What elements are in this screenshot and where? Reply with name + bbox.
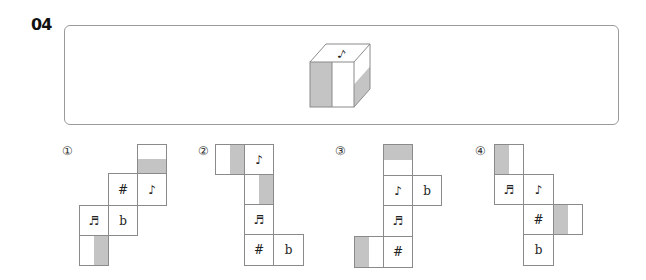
net-cell: ♬	[383, 205, 413, 237]
net-cell: #	[244, 234, 274, 266]
net-cell	[553, 204, 583, 235]
cube-figure: ♪	[300, 38, 380, 118]
flat-symbol: b	[535, 243, 543, 257]
option-1-marker[interactable]: ①	[62, 145, 73, 157]
net-cell: #	[523, 204, 554, 235]
net-cell	[137, 144, 167, 174]
option-3-marker[interactable]: ③	[335, 145, 346, 157]
sharp-symbol: #	[393, 245, 403, 259]
net-cell: ♪	[137, 173, 167, 206]
net-cell: #	[383, 236, 413, 268]
sharp-symbol: #	[118, 183, 128, 197]
sharp-symbol: #	[254, 243, 264, 257]
net-cell: ♬	[494, 174, 524, 205]
beamed-notes-symbol: ♬	[393, 214, 404, 228]
net-cell	[215, 144, 245, 175]
front-face-shade	[310, 62, 332, 107]
net-cell: b	[412, 175, 442, 206]
net-cell: b	[273, 234, 304, 266]
net-cell: b	[108, 205, 138, 236]
net-cell: #	[108, 173, 138, 206]
flat-symbol: b	[285, 243, 293, 257]
flat-symbol: b	[119, 214, 127, 228]
eighth-note-symbol: ♪	[148, 183, 156, 197]
net-cell	[494, 144, 524, 175]
flat-symbol: b	[423, 184, 431, 198]
sharp-symbol: #	[533, 213, 543, 227]
net-cell	[383, 144, 413, 176]
beamed-notes-symbol: ♬	[254, 213, 265, 227]
net-cell: ♪	[244, 144, 274, 175]
option-2-marker[interactable]: ②	[198, 145, 209, 157]
net-cell: ♪	[523, 174, 554, 205]
option-4-marker[interactable]: ④	[475, 145, 486, 157]
eighth-note-symbol: ♪	[535, 183, 543, 197]
net-cell: ♬	[244, 204, 274, 235]
eighth-note-symbol: ♪	[255, 153, 263, 167]
net-cell: b	[523, 234, 554, 266]
net-cell: ♬	[79, 205, 109, 236]
beamed-notes-symbol: ♬	[89, 214, 100, 228]
question-number: 04	[31, 15, 51, 34]
net-cell	[354, 236, 384, 268]
eighth-note-symbol: ♪	[394, 184, 402, 198]
net-cell: ♪	[383, 175, 413, 206]
net-cell	[244, 174, 274, 205]
beamed-notes-symbol: ♬	[504, 183, 515, 197]
net-cell	[79, 235, 109, 266]
